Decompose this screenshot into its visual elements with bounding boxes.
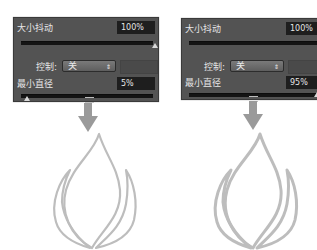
min-diameter-value[interactable]: 5% — [117, 77, 155, 90]
min-diameter-slider-handle[interactable] — [24, 96, 30, 101]
control-dropdown-value: 关 — [236, 61, 245, 71]
size-jitter-label: 大小抖动 — [185, 24, 221, 34]
flame-outline-icon — [42, 132, 142, 250]
brush-settings-panel-right: 大小抖动 100% 控制: 关 ⇕ 最小直径 95% — [181, 18, 317, 100]
control-label: 控制: — [204, 62, 225, 72]
control-dropdown[interactable]: 关 ⇕ — [62, 60, 116, 72]
size-jitter-slider-handle[interactable] — [152, 43, 158, 48]
control-label: 控制: — [36, 62, 57, 72]
size-jitter-value[interactable]: 100% — [286, 22, 317, 35]
size-jitter-slider[interactable] — [21, 41, 153, 45]
control-aux-field — [120, 60, 158, 74]
size-jitter-label: 大小抖动 — [17, 23, 53, 33]
down-arrow-icon — [243, 101, 263, 130]
select-arrows-icon: ⇕ — [106, 61, 111, 72]
size-jitter-slider[interactable] — [189, 41, 317, 45]
down-arrow-icon — [78, 103, 98, 132]
brush-settings-panel-left: 大小抖动 100% 控制: 关 ⇕ 最小直径 5% — [13, 17, 159, 102]
control-aux-field — [288, 60, 317, 74]
min-diameter-label: 最小直径 — [185, 78, 221, 88]
flame-outline-icon — [203, 132, 303, 250]
select-arrows-icon: ⇕ — [274, 61, 279, 72]
control-dropdown-value: 关 — [68, 61, 77, 71]
min-diameter-value[interactable]: 95% — [286, 76, 317, 89]
size-jitter-value[interactable]: 100% — [117, 21, 155, 34]
control-dropdown[interactable]: 关 ⇕ — [230, 60, 284, 72]
min-diameter-label: 最小直径 — [17, 79, 53, 89]
min-diameter-slider-handle[interactable] — [314, 92, 317, 97]
